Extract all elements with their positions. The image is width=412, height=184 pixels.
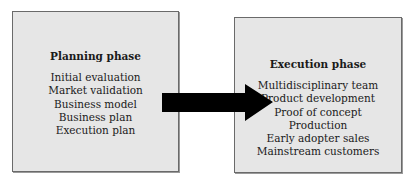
right-arrow-icon [0,0,412,184]
